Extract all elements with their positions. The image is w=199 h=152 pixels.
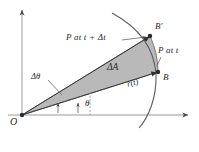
leader-line-delta-theta (48, 80, 62, 95)
label-origin-o: O (10, 117, 17, 127)
point-origin-O (20, 113, 24, 117)
label-b: B (163, 73, 169, 82)
figure-container: P at t + Δt P at t B′ B r(t) ΔA Δθ θ O (0, 0, 199, 152)
label-p-at-t: P at t (158, 46, 179, 55)
point-B-prime (148, 34, 152, 38)
label-p-at-t-plus-delta-t: P at t + Δt (66, 33, 106, 42)
label-delta-theta: Δθ (31, 72, 40, 81)
point-B (156, 70, 160, 74)
label-b-prime: B′ (155, 22, 162, 31)
label-delta-a: ΔA (107, 63, 118, 73)
diagram-canvas (0, 0, 199, 152)
label-theta: θ (85, 99, 89, 108)
